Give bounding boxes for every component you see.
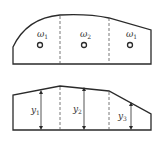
diagram-canvas: ω1 ω2 ω1 y1 y2 y3 [0, 0, 164, 142]
region-label-1: ω1 [37, 29, 48, 40]
top-figure: ω1 ω2 ω1 [13, 15, 151, 64]
height-label-2: y2 [72, 104, 82, 115]
hole-icon [82, 43, 87, 48]
top-outline [13, 15, 151, 64]
hole-icon [128, 43, 133, 48]
height-label-1: y1 [30, 105, 40, 116]
height-label-3: y3 [117, 111, 127, 122]
hole-icon [38, 43, 43, 48]
region-label-3: ω1 [126, 29, 137, 40]
region-label-2: ω2 [80, 29, 91, 40]
bottom-figure: y1 y2 y3 [13, 86, 151, 130]
